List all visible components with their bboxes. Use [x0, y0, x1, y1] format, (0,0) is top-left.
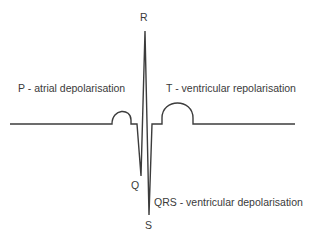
q-point-label: Q	[131, 180, 139, 191]
p-wave-label: P - atrial depolarisation	[18, 83, 125, 94]
t-wave-label: T - ventricular repolarisation	[166, 83, 296, 94]
s-point-label: S	[145, 220, 152, 231]
ecg-trace	[10, 31, 295, 215]
r-peak-label: R	[140, 12, 148, 23]
qrs-complex-label: QRS - ventricular depolarisation	[154, 197, 303, 208]
